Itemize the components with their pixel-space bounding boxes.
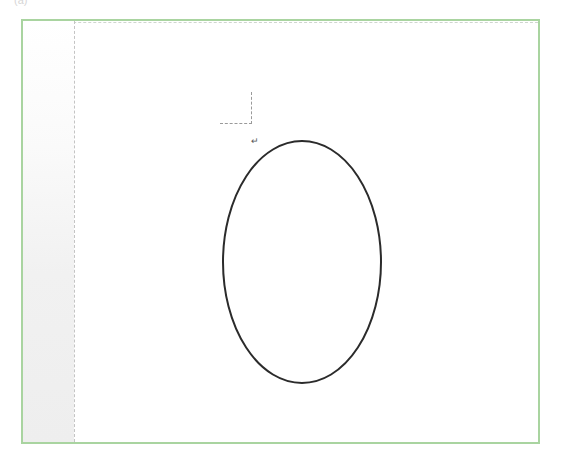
drawing-canvas — [0, 0, 564, 464]
ellipse-shape[interactable] — [223, 141, 381, 383]
